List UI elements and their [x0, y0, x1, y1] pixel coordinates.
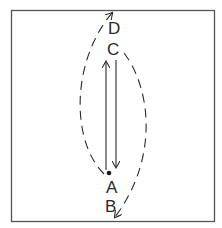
label-b: B — [105, 197, 116, 216]
point-a-dot — [107, 171, 112, 176]
dashed-arc-right — [115, 53, 146, 217]
label-d: D — [108, 19, 120, 38]
label-a: A — [106, 178, 118, 197]
motion-diagram: D C A B — [0, 0, 222, 228]
label-c: C — [107, 40, 119, 59]
